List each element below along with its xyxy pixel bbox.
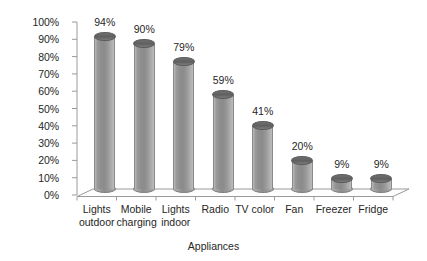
bar-value-label: 94% bbox=[94, 17, 115, 28]
bar-value-label: 9% bbox=[334, 159, 349, 170]
bar-top-ellipse bbox=[173, 57, 195, 66]
bar-body bbox=[252, 126, 273, 189]
x-axis-category-label: Freezer bbox=[314, 203, 354, 216]
bar-value-label: 9% bbox=[374, 159, 389, 170]
bar: 79% bbox=[173, 57, 194, 189]
bar-top-ellipse bbox=[331, 174, 353, 183]
bar-top-ellipse bbox=[94, 32, 116, 41]
bar-top-ellipse bbox=[291, 156, 313, 165]
bar: 9% bbox=[371, 174, 392, 189]
bar: 20% bbox=[292, 156, 313, 189]
bar-body bbox=[173, 62, 194, 189]
bar-cylinder bbox=[252, 121, 273, 189]
x-axis-title: Appliances bbox=[0, 240, 427, 252]
bar-top-ellipse bbox=[133, 39, 155, 48]
bars-layer: 94%90%79%59%41%20%9%9% bbox=[0, 0, 427, 261]
bar-cylinder bbox=[371, 174, 392, 189]
bar-value-label: 59% bbox=[213, 75, 234, 86]
bar: 90% bbox=[134, 39, 155, 189]
x-axis-category-label: Fan bbox=[275, 203, 315, 216]
bar: 94% bbox=[94, 32, 115, 189]
bar: 59% bbox=[213, 90, 234, 189]
x-axis-category-label: Lights indoor bbox=[156, 203, 196, 228]
bar-cylinder bbox=[173, 57, 194, 189]
bar-value-label: 20% bbox=[292, 141, 313, 152]
bar-body bbox=[94, 37, 115, 189]
bar-cylinder bbox=[94, 32, 115, 189]
x-axis-category-label: Fridge bbox=[354, 203, 394, 216]
x-axis-category-label: Radio bbox=[196, 203, 236, 216]
bar-body bbox=[134, 44, 155, 189]
bar: 41% bbox=[252, 121, 273, 189]
bar-chart: 100% 90% 80% 70% 60% 50% 40% 30% 20% 10%… bbox=[0, 0, 427, 261]
bar-body bbox=[213, 95, 234, 189]
bar-value-label: 90% bbox=[134, 24, 155, 35]
x-axis-category-label: TV color bbox=[235, 203, 275, 216]
bar-cylinder bbox=[292, 156, 313, 189]
bar-cylinder bbox=[134, 39, 155, 189]
bar-cylinder bbox=[331, 174, 352, 189]
bar-value-label: 41% bbox=[252, 106, 273, 117]
x-axis-category-label: Mobile charging bbox=[117, 203, 157, 228]
bar-value-label: 79% bbox=[173, 42, 194, 53]
bar: 9% bbox=[331, 174, 352, 189]
bar-top-ellipse bbox=[252, 121, 274, 130]
x-axis-category-label: Lights outdoor bbox=[77, 203, 117, 228]
bar-cylinder bbox=[213, 90, 234, 189]
bar-body bbox=[292, 161, 313, 189]
